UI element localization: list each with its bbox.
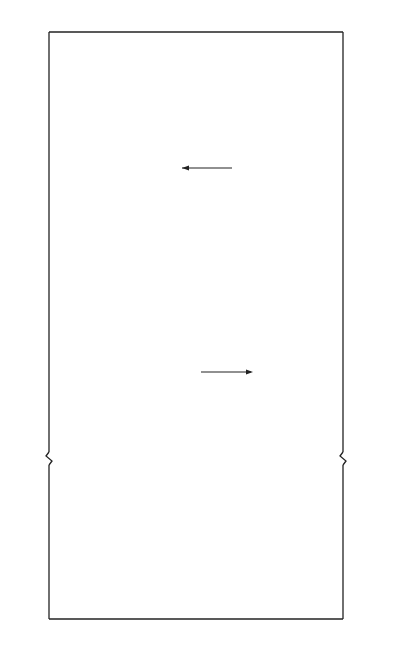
- bottom-panel-frame: [49, 465, 343, 619]
- axis-break-marks: [46, 452, 346, 465]
- right-axis-break-icon: [340, 452, 346, 465]
- top-panel-frame: [49, 32, 343, 452]
- chart-figure: [0, 0, 393, 665]
- right-arrowhead-icon: [246, 370, 253, 375]
- chart-canvas: [0, 0, 393, 665]
- axis-indicator-arrows: [182, 166, 253, 375]
- left-axis-break-icon: [46, 452, 52, 465]
- left-arrowhead-icon: [182, 166, 189, 171]
